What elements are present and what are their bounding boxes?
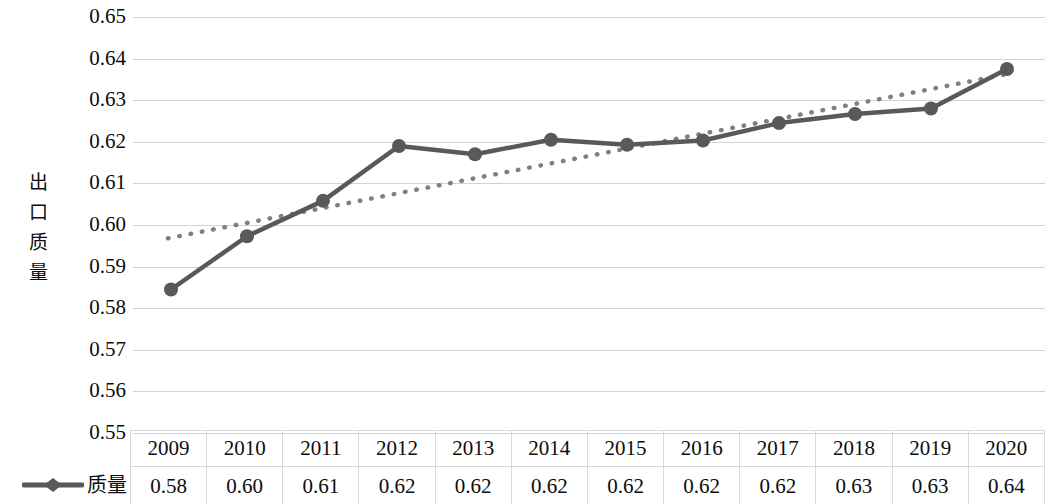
y-axis-tick-0-55: 0.55	[48, 422, 126, 443]
table-cell-value: 0.61	[283, 467, 359, 504]
table-cell-year: 2013	[435, 431, 511, 467]
table-cell-value: 0.62	[359, 467, 435, 504]
table-cell-year: 2012	[359, 431, 435, 467]
table-cell-year: 2020	[968, 431, 1044, 467]
data-point-marker	[240, 229, 254, 243]
table-cell-year: 2010	[207, 431, 283, 467]
table-cell-value: 0.62	[587, 467, 663, 504]
data-point-marker	[620, 138, 634, 152]
y-axis-tick-labels: 0.650.640.630.620.610.600.590.580.570.56…	[48, 0, 132, 434]
y-axis-tick-0-60: 0.60	[48, 214, 126, 235]
table-cell-value: 0.64	[968, 467, 1044, 504]
data-point-marker	[468, 147, 482, 161]
chart-page: 出口质量 0.650.640.630.620.610.600.590.580.5…	[0, 0, 1045, 504]
y-axis-tick-0-58: 0.58	[48, 297, 126, 318]
y-axis-tick-0-57: 0.57	[48, 339, 126, 360]
table-cell-year: 2014	[511, 431, 587, 467]
data-point-marker	[544, 133, 558, 147]
table-cell-value: 0.58	[131, 467, 207, 504]
y-axis-tick-0-61: 0.61	[48, 172, 126, 193]
y-axis-tick-0-56: 0.56	[48, 380, 126, 401]
data-point-marker	[848, 107, 862, 121]
data-point-marker	[1000, 62, 1014, 76]
legend: 质量	[10, 466, 130, 504]
table-cell-value: 0.62	[511, 467, 587, 504]
y-axis-tick-0-59: 0.59	[48, 256, 126, 277]
table-cell-value: 0.63	[816, 467, 892, 504]
data-point-marker	[924, 102, 938, 116]
table-cell-year: 2018	[816, 431, 892, 467]
table-cell-value: 0.62	[435, 467, 511, 504]
data-point-marker	[316, 194, 330, 208]
series-svg	[133, 17, 1045, 433]
plot-area	[133, 17, 1045, 433]
table-cell-value: 0.60	[207, 467, 283, 504]
table-cell-year: 2015	[587, 431, 663, 467]
legend-label: 质量	[87, 475, 127, 495]
data-table: 2009201020112012201320142015201620172018…	[130, 430, 1045, 504]
y-axis-tick-0-62: 0.62	[48, 131, 126, 152]
data-point-marker	[772, 116, 786, 130]
table-row-values: 0.580.600.610.620.620.620.620.620.620.63…	[131, 467, 1045, 504]
table-cell-year: 2019	[892, 431, 968, 467]
series-line-quality	[171, 69, 1007, 289]
y-axis-tick-0-65: 0.65	[48, 6, 126, 27]
table-cell-value: 0.62	[664, 467, 740, 504]
data-point-marker	[392, 139, 406, 153]
table-row-years: 2009201020112012201320142015201620172018…	[131, 431, 1045, 467]
data-point-marker	[164, 282, 178, 296]
table-cell-year: 2009	[131, 431, 207, 467]
table-cell-year: 2011	[283, 431, 359, 467]
y-axis-tick-0-63: 0.63	[48, 89, 126, 110]
table-cell-year: 2017	[740, 431, 816, 467]
y-axis-tick-0-64: 0.64	[48, 48, 126, 69]
table-cell-value: 0.62	[740, 467, 816, 504]
table-cell-value: 0.63	[892, 467, 968, 504]
table-cell-year: 2016	[664, 431, 740, 467]
line-diamond-marker-icon	[22, 476, 84, 494]
data-point-marker	[696, 134, 710, 148]
